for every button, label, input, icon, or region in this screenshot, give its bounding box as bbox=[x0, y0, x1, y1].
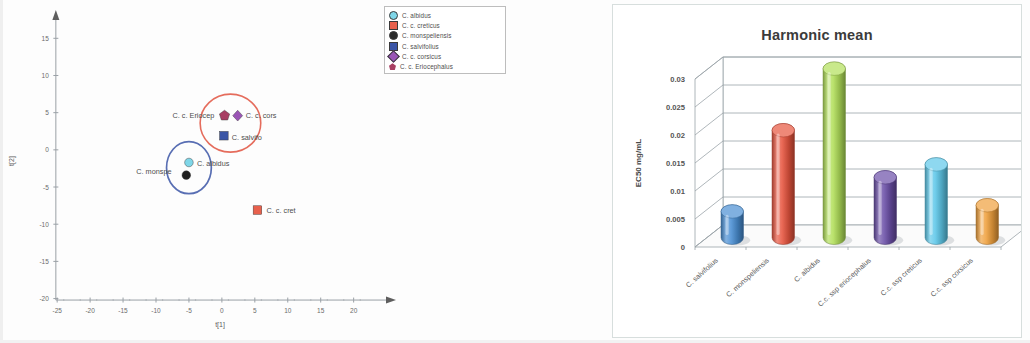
x-category-label: C. salvifolius bbox=[684, 256, 720, 290]
bar-body bbox=[772, 124, 794, 245]
x-tick-label: 5 bbox=[253, 307, 257, 314]
x-minor-tick bbox=[80, 299, 81, 300]
x-minor-tick bbox=[310, 299, 311, 300]
x-minor-tick bbox=[96, 299, 97, 300]
bar-highlight bbox=[726, 215, 729, 235]
x-tick-label: 15 bbox=[317, 307, 325, 314]
legend-item[interactable]: C. salvifolius bbox=[389, 41, 502, 51]
x-category-label: C.c. ssp eriocephalus bbox=[816, 256, 873, 309]
x-tick-label: 0 bbox=[220, 307, 224, 314]
x-tick-label: -25 bbox=[52, 307, 62, 314]
x-minor-tick bbox=[211, 299, 212, 300]
bar-highlight bbox=[930, 168, 933, 235]
x-category-label: C. monspeliensis bbox=[724, 256, 771, 300]
x-minor-tick bbox=[112, 299, 113, 300]
scatter-point-label: C. salvifo bbox=[232, 133, 262, 142]
bar-c-albidus[interactable] bbox=[823, 62, 845, 245]
pca-score-scatter-plot: -25-20-15-10-505101520151050-5-10-15-20t… bbox=[0, 0, 588, 343]
y-tick-label: 0 bbox=[45, 146, 49, 153]
bar-body bbox=[823, 62, 845, 245]
bar-c-salvifolius[interactable] bbox=[721, 205, 743, 245]
bar-highlight bbox=[981, 209, 984, 235]
legend-item[interactable]: C. c. creticus bbox=[389, 20, 502, 30]
x-category-label: C.c. ssp corsicus bbox=[928, 256, 975, 299]
bar-svg: 00.0050.010.0150.020.0250.03EC50 mg/mLC.… bbox=[613, 5, 1021, 337]
scatter-point-label: C. c. cors bbox=[246, 111, 277, 120]
bar-highlight bbox=[777, 134, 780, 235]
bar-highlight bbox=[879, 181, 882, 235]
x-axis-title: t[1] bbox=[215, 321, 225, 329]
y-tick-label: 0.005 bbox=[666, 215, 686, 224]
scatter-point-label: C. monspe bbox=[136, 167, 171, 176]
bar-c-monspeliensis[interactable] bbox=[772, 124, 794, 245]
x-category-label: C.c. ssp creticus bbox=[879, 256, 925, 298]
x-axis-arrow bbox=[386, 297, 396, 304]
x-tick-label: 20 bbox=[350, 307, 358, 314]
scatter-point-c-salvifolius[interactable] bbox=[220, 131, 229, 140]
bar-c-c-ssp-corsicus[interactable] bbox=[976, 199, 998, 245]
bar-top-cap bbox=[976, 199, 998, 212]
page-edge-left bbox=[0, 0, 3, 343]
scatter-legend: C. albidusC. c. creticusC. monspeliensis… bbox=[384, 6, 506, 74]
x-tick-label: -20 bbox=[85, 307, 95, 314]
x-tick-label: 10 bbox=[284, 307, 292, 314]
x-tick-label: -15 bbox=[118, 307, 128, 314]
legend-item-label: C. c. Eriocephalus bbox=[400, 63, 453, 70]
y-tick-label: -15 bbox=[39, 258, 49, 265]
y-tick-label: 15 bbox=[42, 35, 50, 42]
x-minor-tick bbox=[228, 299, 229, 300]
harmonic-mean-bar-chart: Harmonic mean 00.0050.010.0150.020.0250.… bbox=[612, 4, 1022, 338]
x-minor-tick bbox=[178, 299, 179, 300]
legend-item[interactable]: C. c. Eriocephalus bbox=[389, 61, 502, 71]
x-minor-tick bbox=[277, 299, 278, 300]
y-tick-label: 0.025 bbox=[666, 103, 686, 112]
x-minor-tick bbox=[261, 299, 262, 300]
bar-c-c-ssp-creticus[interactable] bbox=[925, 158, 947, 245]
bar-top-cap bbox=[925, 158, 947, 171]
y-tick-label: 0.03 bbox=[670, 75, 685, 84]
y-tick-label: 10 bbox=[42, 72, 50, 79]
x-minor-tick bbox=[162, 299, 163, 300]
scatter-point-label: C. albidus bbox=[197, 159, 230, 168]
legend-item[interactable]: C. c. corsicus bbox=[389, 51, 502, 61]
scatter-point-c-c-creticus[interactable] bbox=[253, 206, 262, 215]
scatter-point-c-albidus[interactable] bbox=[185, 158, 194, 167]
y-tick-label: -20 bbox=[39, 295, 49, 302]
legend-item-label: C. monspeliensis bbox=[402, 32, 452, 39]
x-tick-label: -5 bbox=[186, 307, 192, 314]
bar-top-cap bbox=[874, 171, 896, 184]
x-minor-tick bbox=[129, 299, 130, 300]
y-tick-label: 0 bbox=[681, 243, 685, 252]
bar-top-cap bbox=[823, 62, 845, 75]
y-tick-label: 0.015 bbox=[666, 159, 686, 168]
legend-item[interactable]: C. monspeliensis bbox=[389, 31, 502, 41]
y-tick-label: 5 bbox=[45, 109, 49, 116]
x-minor-tick bbox=[244, 299, 245, 300]
legend-item-label: C. albidus bbox=[402, 12, 431, 19]
y-tick-label: -5 bbox=[43, 184, 49, 191]
x-minor-tick bbox=[63, 299, 64, 300]
x-tick-label: -10 bbox=[151, 307, 161, 314]
legend-swatch-pentagon-icon bbox=[389, 63, 396, 70]
y-axis-title: t[2] bbox=[8, 156, 16, 166]
legend-swatch-circle-icon bbox=[389, 11, 398, 20]
x-minor-tick bbox=[360, 299, 361, 300]
y-tick-label: -10 bbox=[39, 221, 49, 228]
y-axis-title: EC50 mg/mL bbox=[634, 139, 643, 188]
page-canvas: -25-20-15-10-505101520151050-5-10-15-20t… bbox=[0, 0, 1030, 343]
x-minor-tick bbox=[145, 299, 146, 300]
x-minor-tick bbox=[294, 299, 295, 300]
legend-item-label: C. salvifolius bbox=[402, 43, 439, 50]
x-minor-tick bbox=[343, 299, 344, 300]
legend-swatch-square-icon bbox=[389, 21, 398, 30]
bar-c-c-ssp-eriocephalus[interactable] bbox=[874, 171, 896, 245]
bar-top-cap bbox=[721, 205, 743, 218]
legend-item[interactable]: C. albidus bbox=[389, 10, 502, 20]
scatter-point-c-monspeliensis[interactable] bbox=[182, 171, 191, 180]
x-category-label: C. albidus bbox=[792, 256, 822, 284]
scatter-point-c-c-eriocephalus[interactable] bbox=[219, 110, 229, 120]
scatter-point-c-c-corsicus[interactable] bbox=[233, 110, 243, 121]
scatter-point-label: C. c. Eriocep bbox=[173, 111, 215, 120]
y-tick-label: 0.01 bbox=[670, 187, 686, 196]
bar-top-cap bbox=[772, 124, 794, 137]
